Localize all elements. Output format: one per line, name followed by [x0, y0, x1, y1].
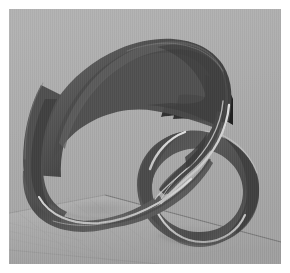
render-viewport [9, 9, 281, 264]
screenshot-root: Twisted Ribbon Sculpture 3D render of a … [0, 0, 290, 273]
3d-render-scene [9, 9, 281, 264]
